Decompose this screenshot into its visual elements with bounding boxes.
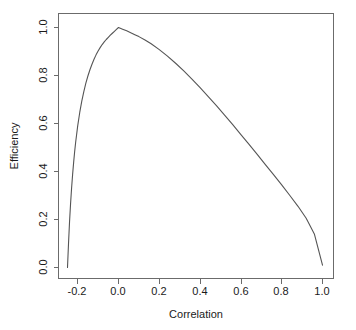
- chart-canvas: -0.2 0.0 0.2 0.4 0.6 0.8 1.0 0.0 0.2 0.4…: [0, 0, 356, 330]
- x-tick-label-6: 1.0: [314, 285, 329, 297]
- x-tick-label-5: 0.8: [273, 285, 288, 297]
- x-axis-title: Correlation: [169, 308, 223, 320]
- x-tick-label-0: -0.2: [68, 285, 87, 297]
- y-tick-label-4: 0.8: [37, 67, 49, 82]
- y-tick-label-1: 0.2: [37, 211, 49, 226]
- plot-frame: [59, 14, 334, 279]
- x-tick-label-1: 0.0: [110, 285, 125, 297]
- x-tick-label-2: 0.2: [151, 285, 166, 297]
- x-tick-label-4: 0.6: [233, 285, 248, 297]
- y-axis-title: Efficiency: [8, 122, 20, 169]
- x-axis-ticks: [78, 279, 323, 284]
- chart-figure: -0.2 0.0 0.2 0.4 0.6 0.8 1.0 0.0 0.2 0.4…: [0, 0, 356, 330]
- y-axis-tick-labels: 0.0 0.2 0.4 0.6 0.8 1.0: [37, 19, 49, 274]
- x-axis-tick-labels: -0.2 0.0 0.2 0.4 0.6 0.8 1.0: [68, 285, 330, 297]
- x-tick-label-3: 0.4: [192, 285, 207, 297]
- y-tick-label-0: 0.0: [37, 259, 49, 274]
- y-tick-label-5: 1.0: [37, 19, 49, 34]
- efficiency-curve: [68, 28, 323, 268]
- y-tick-label-2: 0.4: [37, 163, 49, 178]
- y-axis-ticks: [54, 28, 59, 268]
- y-tick-label-3: 0.6: [37, 115, 49, 130]
